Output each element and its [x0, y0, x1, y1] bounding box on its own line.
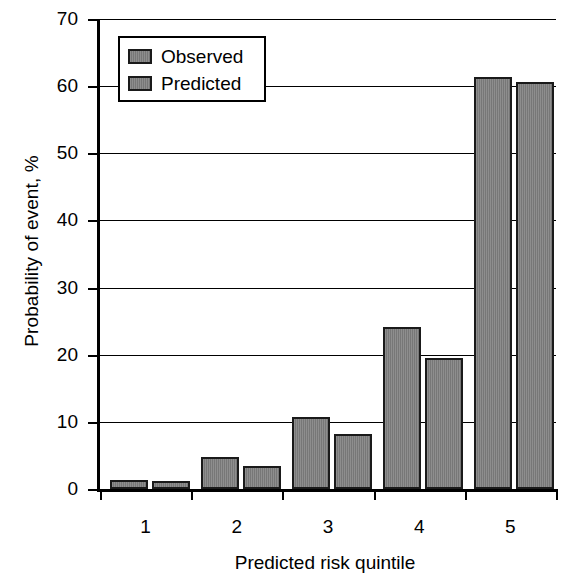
y-axis-tick-label: 30 [32, 278, 78, 297]
y-axis-tick-label: 70 [32, 9, 78, 28]
y-axis-tick-label: 60 [32, 76, 78, 95]
bar-chart-figure: Probability of event, % 0102030405060701… [0, 0, 570, 576]
bar-observed-q1 [110, 480, 148, 489]
chart-legend: Observed Predicted [118, 36, 266, 102]
bar-predicted-q4 [425, 358, 463, 489]
x-axis-label: Predicted risk quintile [97, 552, 553, 574]
y-axis-tick [88, 355, 99, 357]
y-axis-tick [88, 153, 99, 155]
bar-predicted-q5 [516, 82, 554, 489]
y-axis-tick [88, 19, 99, 21]
y-axis-tick [88, 422, 99, 424]
y-axis-tick-label: 40 [32, 210, 78, 229]
bar-predicted-q3 [334, 434, 372, 489]
x-axis-tick [556, 489, 558, 500]
bar-predicted-q1 [152, 481, 190, 489]
x-axis-tick [282, 489, 284, 500]
legend-item-predicted: Predicted [128, 70, 264, 97]
gridline [100, 19, 556, 20]
x-axis-tick-label: 4 [399, 516, 439, 538]
x-axis-tick [374, 489, 376, 500]
legend-swatch-predicted [128, 76, 152, 91]
y-axis-tick-label: 10 [32, 412, 78, 431]
x-axis-tick [191, 489, 193, 500]
legend-label-predicted: Predicted [161, 74, 241, 93]
x-axis-tick-origin [100, 489, 102, 500]
legend-swatch-observed [128, 49, 152, 64]
x-axis-tick-label: 2 [217, 516, 257, 538]
bar-observed-q4 [383, 327, 421, 489]
y-axis-tick [88, 86, 99, 88]
bar-observed-q3 [292, 417, 330, 489]
y-axis-tick [88, 288, 99, 290]
legend-item-observed: Observed [128, 43, 264, 70]
x-axis-tick-label: 3 [308, 516, 348, 538]
y-axis-tick-label: 20 [32, 345, 78, 364]
y-axis-tick-label: 0 [32, 479, 78, 498]
y-axis-tick [88, 489, 99, 491]
legend-label-observed: Observed [161, 47, 243, 66]
bar-predicted-q2 [243, 466, 281, 490]
bar-observed-q5 [474, 77, 512, 489]
y-axis-label: Probability of event, % [21, 31, 43, 471]
x-axis-tick-label: 5 [490, 516, 530, 538]
y-axis-tick-label: 50 [32, 143, 78, 162]
x-axis-tick [465, 489, 467, 500]
x-axis-tick-label: 1 [126, 516, 166, 538]
y-axis-tick [88, 220, 99, 222]
bar-observed-q2 [201, 457, 239, 489]
